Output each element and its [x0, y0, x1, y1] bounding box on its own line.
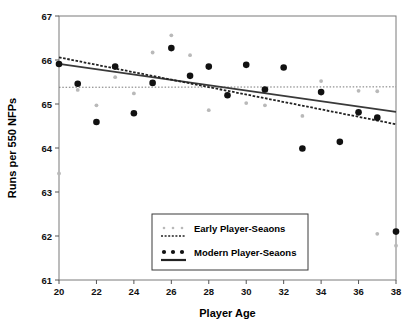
modern-data-point [131, 110, 138, 117]
early-data-point [57, 172, 61, 176]
modern-data-point [374, 114, 381, 121]
y-tick-label: 65 [41, 99, 52, 110]
y-tick-label: 64 [41, 143, 52, 154]
modern-data-point [393, 228, 400, 235]
x-tick-label: 28 [203, 286, 214, 297]
early-data-point [319, 79, 323, 83]
early-data-point [207, 108, 211, 112]
legend-label: Early Player-Seaons [194, 223, 285, 234]
modern-data-point [112, 63, 119, 70]
x-tick-label: 26 [166, 286, 177, 297]
x-tick-label: 34 [316, 286, 327, 297]
early-data-point [244, 101, 248, 105]
trend-line [59, 57, 396, 124]
modern-data-point [74, 80, 81, 87]
modern-data-point [243, 62, 250, 69]
legend-marker [180, 250, 184, 254]
modern-data-point [355, 109, 362, 116]
modern-data-point [337, 139, 344, 146]
modern-data-point [205, 63, 212, 70]
legend-marker [162, 250, 166, 254]
legend-marker [171, 250, 175, 254]
x-tick-label: 36 [353, 286, 364, 297]
modern-data-point [168, 45, 175, 52]
early-data-point [113, 75, 117, 79]
y-axis-ticks: 61626364656667 [41, 11, 59, 286]
modern-data-point [280, 64, 287, 71]
legend-marker [163, 227, 166, 230]
x-tick-label: 20 [54, 286, 65, 297]
scatter-plot-figure: 61626364656667 20222426283032343638 Play… [0, 0, 412, 330]
early-data-point [188, 53, 192, 57]
early-data-point [375, 232, 379, 236]
early-data-point [263, 103, 267, 107]
modern-data-point [187, 73, 194, 80]
x-tick-label: 22 [91, 286, 102, 297]
y-tick-label: 61 [41, 275, 52, 286]
legend-marker [172, 227, 175, 230]
early-data-point [300, 114, 304, 118]
chart-legend: Early Player-SeaonsModern Player-Seaons [152, 214, 308, 270]
x-tick-label: 24 [129, 286, 140, 297]
modern-data-point [93, 119, 100, 126]
early-data-point [394, 244, 398, 248]
modern-player-seasons-points [56, 45, 400, 235]
y-tick-label: 66 [41, 55, 52, 66]
early-data-point [151, 51, 155, 55]
y-axis-title: Runs per 550 NFPs [6, 98, 18, 198]
modern-data-point [56, 61, 63, 68]
early-data-point [132, 92, 136, 96]
legend-label: Modern Player-Seaons [194, 247, 296, 258]
legend-marker [181, 227, 184, 230]
early-data-point [375, 89, 379, 93]
trend-lines-layer [59, 57, 396, 124]
early-data-point [169, 33, 173, 37]
x-axis-title: Player Age [199, 307, 255, 319]
x-tick-label: 38 [391, 286, 402, 297]
y-tick-label: 62 [41, 231, 52, 242]
y-tick-label: 67 [41, 11, 52, 22]
x-axis-ticks: 20222426283032343638 [54, 280, 402, 297]
early-data-point [95, 103, 99, 107]
modern-data-point [318, 89, 325, 96]
x-tick-label: 32 [278, 286, 289, 297]
chart-canvas: 61626364656667 20222426283032343638 Play… [0, 0, 412, 330]
early-data-point [76, 88, 80, 92]
modern-data-point [149, 80, 156, 87]
y-tick-label: 63 [41, 187, 52, 198]
modern-data-point [299, 145, 306, 152]
x-tick-label: 30 [241, 286, 252, 297]
trend-line [59, 64, 396, 112]
modern-data-point [262, 86, 269, 93]
early-data-point [357, 89, 361, 93]
modern-data-point [224, 92, 231, 99]
